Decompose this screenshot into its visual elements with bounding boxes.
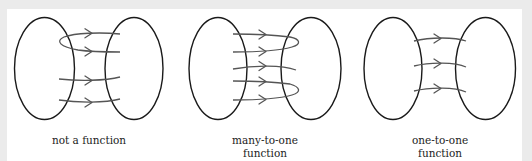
caption-line: one-to-one (370, 134, 510, 147)
caption-line: many-to-one (195, 134, 335, 147)
caption-line: function (370, 147, 510, 160)
caption-many-to-one: many-to-one function (195, 134, 335, 160)
caption-line: function (195, 147, 335, 160)
mapping-arrows (59, 29, 120, 107)
caption-not-a-function: not a function (19, 134, 159, 147)
codomain-ellipse (105, 18, 163, 120)
diagram-not-a-function (15, 18, 164, 120)
caption-line: not a function (19, 134, 159, 147)
diagram-many-to-one (189, 18, 341, 120)
domain-ellipse (364, 18, 422, 120)
diagram-one-to-one (364, 18, 516, 120)
caption-one-to-one: one-to-one function (370, 134, 510, 160)
domain-ellipse (15, 18, 75, 120)
codomain-ellipse (456, 18, 516, 120)
